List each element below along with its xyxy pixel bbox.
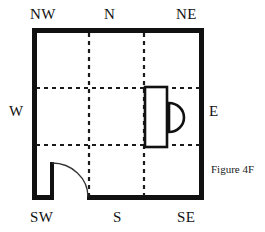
wall-south-main (87, 195, 204, 200)
compass-label-sw: SW (30, 210, 53, 225)
wall-east (199, 28, 204, 200)
compass-label-s: S (113, 210, 122, 225)
compass-label-w: W (9, 104, 23, 119)
compass-label-e: E (209, 104, 218, 119)
figure-container: NW N NE W E SW S SE Figure 4F (0, 0, 265, 232)
compass-label-nw: NW (30, 7, 56, 22)
semicircle-object (169, 103, 184, 132)
wall-north (32, 28, 204, 33)
rectangle-object (145, 87, 167, 147)
door-jamb (50, 162, 54, 200)
wall-south-left-stub (32, 195, 50, 200)
compass-label-se: SE (177, 210, 195, 225)
door-swing-arc (52, 163, 88, 197)
floor-plan-drawing (0, 0, 265, 232)
figure-caption: Figure 4F (211, 164, 254, 175)
compass-label-n: N (104, 7, 115, 22)
compass-label-ne: NE (176, 7, 197, 22)
wall-west (32, 28, 37, 200)
